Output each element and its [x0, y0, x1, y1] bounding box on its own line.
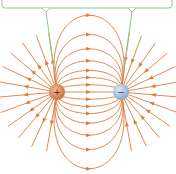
field-line [121, 82, 176, 92]
arrow-icon [24, 100, 30, 105]
field-line [0, 92, 57, 97]
callout-pointer-line [46, 12, 54, 68]
field-line [56, 92, 121, 123]
arrow-icon [86, 97, 91, 101]
arrow-icon [86, 32, 91, 36]
arrow-icon [25, 76, 31, 82]
field-line [57, 85, 121, 92]
arrow-icon [86, 112, 91, 116]
field-diagram: +− Electric field lines between a positi… [0, 0, 176, 174]
arrow-icon [86, 90, 91, 94]
arrow-icon [23, 93, 28, 97]
field-line [121, 92, 131, 151]
field-line [55, 92, 123, 150]
field-line [54, 92, 124, 169]
arrow-icon [86, 148, 91, 152]
arrow-icon [86, 59, 91, 63]
callout-pointer-line [124, 12, 132, 68]
field-line [57, 92, 121, 99]
arrow-icon [41, 117, 47, 123]
arrow-icon [86, 13, 91, 17]
arrow-icon [86, 76, 91, 80]
field-line [55, 34, 123, 92]
arrow-icon [86, 104, 91, 108]
callout-notch [128, 8, 136, 12]
arrow-icon [132, 118, 138, 124]
callout-notch [42, 8, 50, 12]
plus-sign: + [53, 87, 61, 97]
arrow-icon [147, 75, 153, 81]
arrow-icon [137, 62, 143, 68]
arrow-icon [86, 167, 91, 171]
field-line [54, 15, 124, 92]
arrow-icon [86, 121, 91, 125]
arrow-icon [144, 108, 150, 114]
arrow-icon [43, 59, 48, 65]
callout-box [2, 0, 172, 8]
field-line [56, 61, 121, 92]
field-lines-canvas: +− [0, 0, 176, 174]
arrow-icon [36, 63, 42, 69]
arrow-icon [129, 58, 134, 64]
arrow-icon [28, 107, 34, 113]
arrow-icon [86, 83, 91, 87]
arrow-icon [151, 93, 156, 97]
arrow-icon [86, 47, 91, 51]
field-line [0, 82, 57, 92]
arrow-icon [86, 133, 91, 137]
arrow-icon [149, 100, 155, 105]
arrow-icon [86, 68, 91, 72]
minus-sign: − [117, 87, 125, 97]
